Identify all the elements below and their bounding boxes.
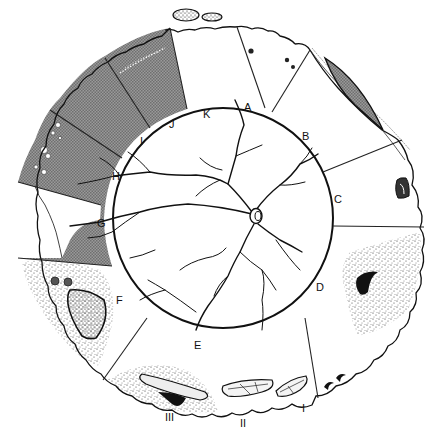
fundus-diagram: A B C D E F G H I J K I II III [0,0,439,437]
pigment-dots [248,48,295,69]
lesion-label-ii: II [240,417,246,429]
top-lattice-lesions [173,9,222,21]
lattice-lesion-iii [107,365,218,412]
label-b: B [302,130,309,142]
posterior-pole-circle [113,108,333,328]
shaded-region [18,28,187,266]
lesion-label-i: I [302,402,305,414]
label-c: C [334,193,342,205]
label-i: I [140,135,143,147]
lattice-lesion-ii [222,380,273,397]
label-j: J [169,118,175,130]
label-g: G [97,217,106,229]
label-f: F [116,294,123,306]
lattice-lesion-i [276,376,307,396]
label-k: K [203,108,211,120]
stippled-lesion-f [22,260,114,366]
label-h: H [112,170,120,182]
giant-retinal-tear [325,58,383,130]
label-d: D [316,281,324,293]
label-e: E [194,339,201,351]
label-a: A [244,101,252,113]
lesion-label-iii: III [165,411,174,423]
horseshoe-tear [396,178,409,199]
optic-disc [250,209,262,224]
